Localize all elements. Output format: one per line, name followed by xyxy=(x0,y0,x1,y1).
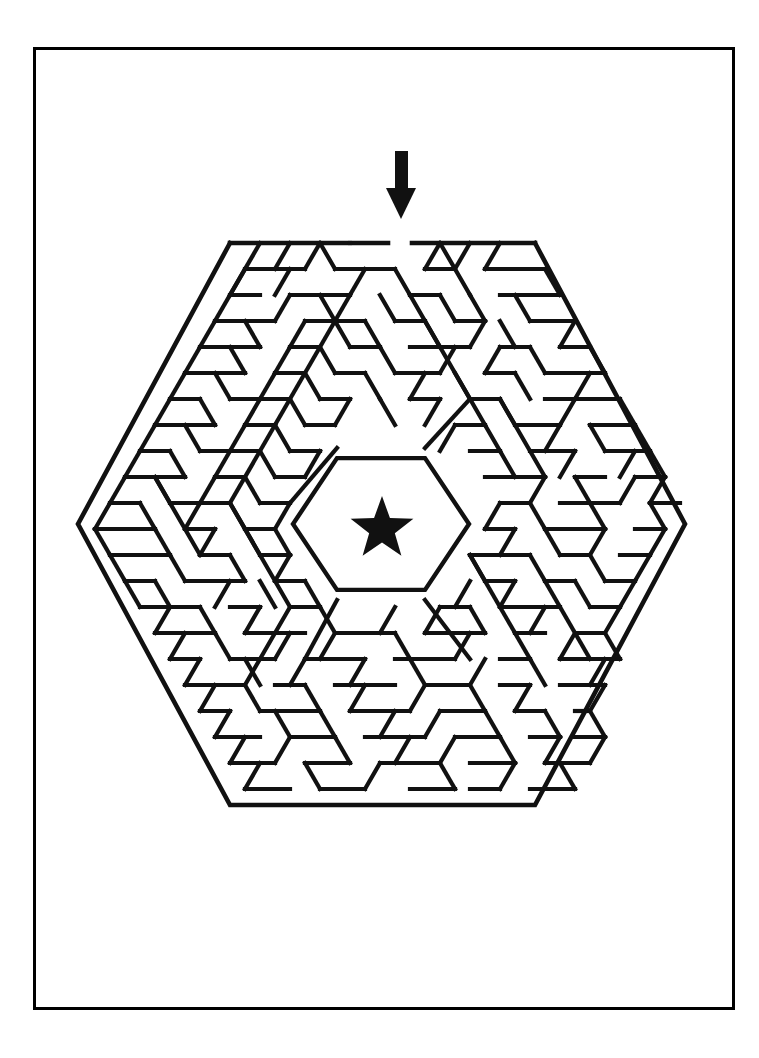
arrow-head-icon xyxy=(386,188,416,219)
maze-canvas xyxy=(0,0,759,1058)
entrance-arrow xyxy=(386,151,416,219)
goal-star xyxy=(351,496,414,556)
star-icon xyxy=(351,496,414,556)
page-root: Hexagonal Maze Puzzle Hexagonal maze wit… xyxy=(0,0,759,1058)
arrow-shaft xyxy=(395,151,408,189)
